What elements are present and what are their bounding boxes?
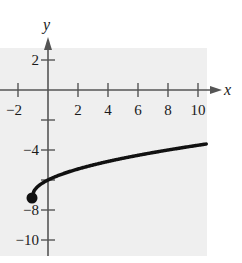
x-tick-label: 8 <box>164 102 172 118</box>
endpoint-marker <box>27 193 38 204</box>
chart: −22468102−4−8−10 x y <box>0 0 242 263</box>
x-tick-label: 4 <box>104 102 112 118</box>
x-tick-label: 6 <box>134 102 142 118</box>
x-axis-label: x <box>223 81 231 98</box>
y-tick-label: −4 <box>23 142 39 158</box>
y-tick-label: −8 <box>23 202 39 218</box>
x-tick-label: 10 <box>191 102 206 118</box>
y-tick-label: −10 <box>16 232 39 248</box>
x-tick-label: −2 <box>6 102 22 118</box>
y-axis-arrow-icon <box>44 37 52 50</box>
y-axis-label: y <box>41 16 51 34</box>
x-tick-label: 2 <box>74 102 82 118</box>
y-tick-label: 2 <box>32 52 40 68</box>
x-axis-arrow-icon <box>210 86 222 94</box>
